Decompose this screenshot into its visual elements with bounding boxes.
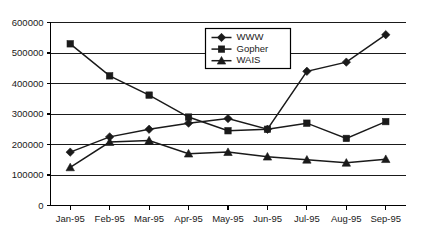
y-tick-label: 500000 [12,47,44,58]
legend-label-gopher: Gopher [237,43,269,54]
x-tick-label: Sep-95 [370,213,401,224]
legend-label-wais: WAIS [237,54,261,65]
legend-marker-gopher [218,46,224,52]
x-tick-label: Aug-95 [331,213,362,224]
legend-label-www: WWW [237,31,264,42]
x-tick-label: Feb-95 [95,213,125,224]
y-tick-labels: 0100000200000300000400000500000600000 [12,17,44,211]
x-tick-labels: Jan-95Feb-95Mar-95Apr-95May-95Jun-95Jul-… [56,213,401,224]
x-tick-label: Mar-95 [134,213,164,224]
y-tick-label: 0 [38,200,43,211]
chart-container: 0100000200000300000400000500000600000 Ja… [0,0,431,242]
y-axis [47,23,51,206]
data-point-www [66,148,74,156]
data-point-gopher [343,135,349,141]
x-tick-label: Apr-95 [174,213,203,224]
y-tick-label: 600000 [12,17,44,28]
data-point-www [224,114,232,122]
y-tick-label: 100000 [12,169,44,180]
x-tick-label: Jul-95 [294,213,320,224]
data-point-www [303,67,311,75]
data-point-gopher [146,92,152,98]
x-tick-label: May-95 [212,213,244,224]
data-point-gopher [304,120,310,126]
data-point-gopher [383,118,389,124]
y-tick-label: 300000 [12,108,44,119]
data-point-gopher [67,41,73,47]
x-axis [51,206,406,210]
data-point-wais [66,163,74,171]
data-point-www [145,125,153,133]
x-tick-label: Jan-95 [56,213,85,224]
data-point-gopher [264,126,270,132]
data-point-gopher [225,128,231,134]
x-tick-label: Jun-95 [253,213,282,224]
y-tick-label: 400000 [12,78,44,89]
data-point-gopher [106,73,112,79]
data-point-gopher [185,114,191,120]
y-tick-label: 200000 [12,139,44,150]
chart-legend: WWWGopherWAIS [206,29,291,69]
line-chart: 0100000200000300000400000500000600000 Ja… [0,0,431,242]
